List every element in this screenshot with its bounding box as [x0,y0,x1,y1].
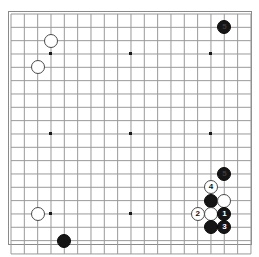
stone-white[interactable] [31,207,45,221]
star-point [49,132,52,135]
move-number-label: 5 [222,23,226,31]
go-board[interactable]: 554213 [0,0,259,257]
star-point [49,52,52,55]
move-number-label: 2 [196,210,200,218]
star-point [129,212,132,215]
star-point [129,52,132,55]
stone-white[interactable] [44,34,58,48]
stone-white[interactable] [217,194,231,208]
move-number-label: 4 [209,183,213,191]
stone-white[interactable] [204,207,218,221]
move-number-label: 1 [222,210,226,218]
star-point [209,132,212,135]
move-number-label: 5 [222,170,226,178]
star-point [209,52,212,55]
star-point [49,212,52,215]
stone-move-2[interactable]: 2 [191,207,205,221]
stone-black[interactable] [204,194,218,208]
stone-white[interactable] [31,60,45,74]
stone-black[interactable] [57,234,71,248]
go-diagram-screenshot: 554213 [0,0,259,257]
move-number-label: 3 [222,223,226,231]
star-point [129,132,132,135]
